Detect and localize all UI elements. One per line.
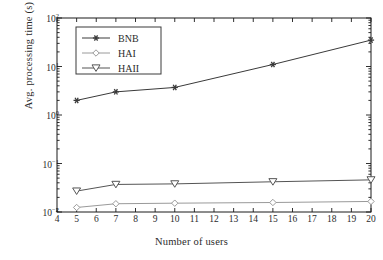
diamond-icon bbox=[73, 204, 79, 210]
series-haii bbox=[73, 177, 375, 195]
data-point-marker bbox=[113, 89, 119, 94]
legend-label-bnb: BNB bbox=[118, 33, 139, 44]
data-point-marker bbox=[172, 85, 178, 90]
data-point-marker bbox=[73, 204, 79, 210]
diamond-icon bbox=[172, 200, 178, 206]
plot-svg: BNBHAIHAII bbox=[0, 0, 383, 260]
legend-label-hai: HAI bbox=[118, 48, 136, 59]
triangle-down-icon bbox=[73, 188, 81, 195]
data-point-marker bbox=[74, 98, 80, 103]
figure-container: Avg. processing time (s) Number of users… bbox=[0, 0, 383, 260]
series-line bbox=[77, 201, 371, 207]
data-point-marker bbox=[113, 201, 119, 207]
diamond-icon bbox=[368, 198, 374, 204]
diamond-icon bbox=[270, 199, 276, 205]
series-line bbox=[77, 180, 371, 191]
data-point-marker bbox=[270, 62, 276, 67]
data-point-marker bbox=[73, 188, 81, 195]
legend-label-haii: HAII bbox=[118, 63, 139, 74]
data-point-marker bbox=[270, 199, 276, 205]
legend: BNBHAIHAII bbox=[76, 27, 161, 74]
data-point-marker bbox=[172, 200, 178, 206]
series-hai bbox=[73, 198, 374, 210]
diamond-icon bbox=[113, 201, 119, 207]
data-point-marker bbox=[368, 198, 374, 204]
